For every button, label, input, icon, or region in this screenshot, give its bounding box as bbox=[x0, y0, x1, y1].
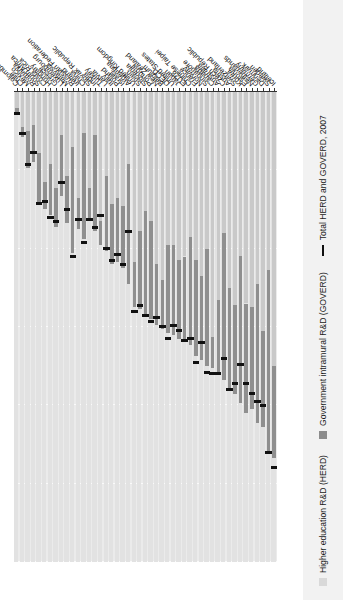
bar-segment-herd bbox=[127, 92, 130, 164]
y-tick-mark bbox=[157, 88, 158, 92]
bar-segment-goverd bbox=[177, 260, 180, 338]
legend-swatch-goverd-icon bbox=[319, 431, 327, 439]
bar-row bbox=[161, 92, 164, 562]
bar-segment-goverd bbox=[133, 262, 136, 307]
bar-segment-herd bbox=[166, 92, 169, 245]
bar-row bbox=[228, 92, 231, 562]
bar-segment-goverd bbox=[37, 153, 40, 202]
bar-segment-herd bbox=[116, 92, 119, 198]
bar-segment-herd bbox=[144, 92, 147, 211]
bar-segment-herd bbox=[133, 92, 136, 262]
total-2007-marker bbox=[243, 382, 249, 385]
total-2007-marker bbox=[142, 314, 148, 317]
bar-row bbox=[88, 92, 91, 562]
bar-segment-herd bbox=[233, 92, 236, 305]
y-tick-mark bbox=[112, 88, 113, 92]
y-tick-mark bbox=[90, 88, 91, 92]
bar-segment-herd bbox=[49, 92, 52, 164]
bar-segment-herd bbox=[194, 92, 197, 260]
total-2007-marker bbox=[75, 218, 81, 221]
bar-row bbox=[32, 92, 35, 562]
bar-segment-herd bbox=[172, 92, 175, 245]
y-tick-mark bbox=[229, 88, 230, 92]
total-2007-marker bbox=[114, 253, 120, 256]
y-tick-mark bbox=[185, 88, 186, 92]
bar-segment-herd bbox=[189, 92, 192, 237]
legend-label-goverd: Government intramural R&D (GOVERD) bbox=[318, 272, 328, 426]
total-2007-marker bbox=[165, 337, 171, 340]
total-2007-marker bbox=[153, 316, 159, 319]
y-tick-mark bbox=[235, 88, 236, 92]
y-tick-mark bbox=[162, 88, 163, 92]
y-tick-mark bbox=[241, 88, 242, 92]
bar-row bbox=[93, 92, 96, 562]
total-2007-marker bbox=[19, 132, 25, 135]
bar-segment-goverd bbox=[161, 280, 164, 329]
bar-segment-herd bbox=[32, 92, 35, 125]
y-tick-mark bbox=[224, 88, 225, 92]
bar-segment-herd bbox=[200, 92, 203, 276]
bar-row bbox=[272, 92, 275, 562]
legend-item-total: Total HERD and GOVERD, 2007 bbox=[318, 115, 328, 256]
y-tick-mark bbox=[123, 88, 124, 92]
bar-segment-herd bbox=[93, 92, 96, 135]
legend-label-herd: Higher education R&D (HERD) bbox=[318, 455, 328, 573]
bar-segment-goverd bbox=[228, 288, 231, 388]
bar-segment-goverd bbox=[166, 245, 169, 333]
bar-row bbox=[60, 92, 63, 562]
bar-segment-goverd bbox=[267, 270, 270, 452]
total-2007-marker bbox=[159, 326, 165, 329]
total-2007-marker bbox=[176, 329, 182, 332]
bar-segment-goverd bbox=[60, 135, 63, 196]
bar-segment-goverd bbox=[99, 221, 102, 245]
bar-row bbox=[26, 92, 29, 562]
bar-segment-herd bbox=[205, 92, 208, 249]
total-2007-marker bbox=[14, 112, 20, 115]
bar-segment-goverd bbox=[82, 133, 85, 239]
total-2007-marker bbox=[137, 304, 143, 307]
bar-segment-goverd bbox=[138, 231, 141, 309]
chart-figure: 0.00.20.40.60.81.01.2% ColombiaChileMexi… bbox=[0, 0, 343, 600]
bar-row bbox=[222, 92, 225, 562]
y-tick-mark bbox=[134, 88, 135, 92]
bar-segment-herd bbox=[77, 92, 80, 198]
bar-row bbox=[166, 92, 169, 562]
y-tick-mark bbox=[173, 88, 174, 92]
y-tick-mark bbox=[257, 88, 258, 92]
y-tick-mark bbox=[34, 88, 35, 92]
total-2007-marker bbox=[237, 363, 243, 366]
bar-row bbox=[149, 92, 152, 562]
bar-row bbox=[217, 92, 220, 562]
bar-segment-goverd bbox=[93, 135, 96, 231]
total-2007-marker bbox=[131, 310, 137, 313]
bar-segment-herd bbox=[250, 92, 253, 307]
bar-row bbox=[43, 92, 46, 562]
total-2007-marker bbox=[271, 467, 277, 470]
y-tick-mark bbox=[56, 88, 57, 92]
total-2007-marker bbox=[232, 382, 238, 385]
y-tick-mark bbox=[274, 88, 275, 92]
y-tick-mark bbox=[95, 88, 96, 92]
total-2007-marker bbox=[64, 208, 70, 211]
bar-row bbox=[105, 92, 108, 562]
bar-segment-goverd bbox=[149, 221, 152, 319]
y-tick-mark bbox=[246, 88, 247, 92]
bar-row bbox=[15, 92, 18, 562]
total-2007-marker bbox=[170, 324, 176, 327]
total-2007-marker bbox=[265, 451, 271, 454]
chart-legend: Higher education R&D (HERD) Government i… bbox=[303, 0, 343, 600]
y-tick-mark bbox=[45, 88, 46, 92]
legend-item-herd: Higher education R&D (HERD) bbox=[318, 455, 328, 586]
total-2007-marker bbox=[97, 214, 103, 217]
bar-row bbox=[200, 92, 203, 562]
total-2007-marker bbox=[249, 392, 255, 395]
y-tick-mark bbox=[50, 88, 51, 92]
bar-segment-herd bbox=[149, 92, 152, 221]
bar-segment-goverd bbox=[172, 245, 175, 335]
bar-segment-goverd bbox=[261, 331, 264, 427]
bar-segment-herd bbox=[161, 92, 164, 280]
bar-row bbox=[116, 92, 119, 562]
bar-segment-herd bbox=[37, 92, 40, 153]
bar-segment-goverd bbox=[49, 164, 52, 215]
bar-segment-herd bbox=[82, 92, 85, 133]
